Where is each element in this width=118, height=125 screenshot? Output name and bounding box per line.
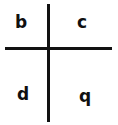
- quadrant-label-bottom-left: d: [17, 86, 29, 103]
- quadrant-label-top-left: b: [15, 14, 27, 31]
- quadrant-label-top-right: c: [77, 14, 87, 31]
- vertical-divider-line: [47, 4, 50, 122]
- quadrant-label-bottom-right: q: [79, 88, 91, 105]
- letter-quadrant-figure: b c d q: [0, 0, 118, 125]
- horizontal-divider-line: [5, 47, 112, 50]
